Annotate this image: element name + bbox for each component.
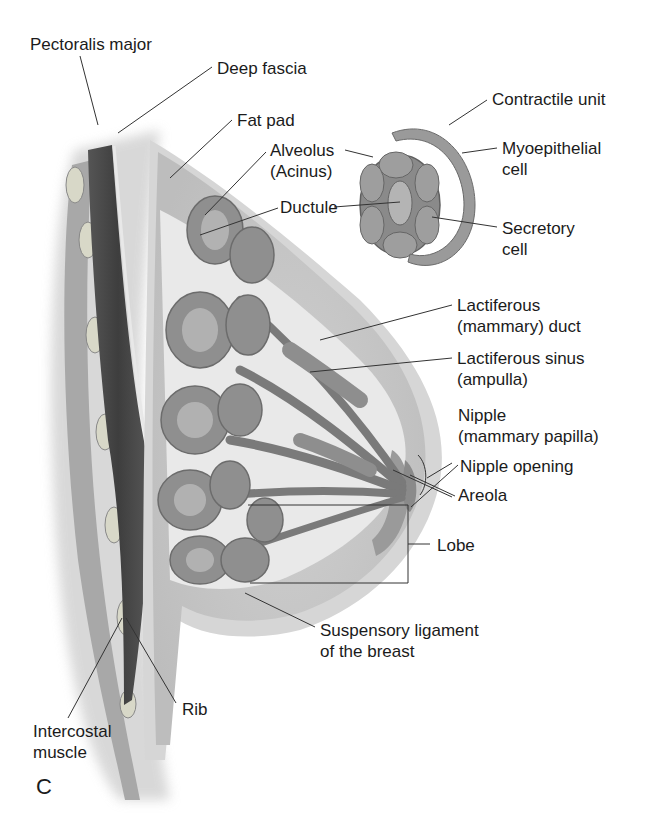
label-myoepithelial-line1: Myoepithelial	[502, 138, 601, 159]
label-lactiferous-sinus-line1: Lactiferous sinus	[457, 348, 585, 369]
label-suspensory-ligament: Suspensory ligament of the breast	[320, 620, 479, 662]
label-intercostal-line2: muscle	[33, 742, 111, 763]
label-secretory-cell: Secretory cell	[502, 218, 575, 260]
label-myoepithelial-line2: cell	[502, 159, 601, 180]
label-lactiferous-duct-line1: Lactiferous	[457, 295, 581, 316]
label-rib: Rib	[182, 699, 208, 720]
label-nipple: Nipple (mammary papilla)	[458, 405, 599, 447]
panel-letter: C	[36, 775, 52, 799]
label-secretory-line1: Secretory	[502, 218, 575, 239]
label-suspensory-line2: of the breast	[320, 641, 479, 662]
alveolus-detail	[360, 129, 475, 265]
label-lactiferous-duct-line2: (mammary) duct	[457, 316, 581, 337]
label-myoepithelial-cell: Myoepithelial cell	[502, 138, 601, 180]
label-nipple-opening: Nipple opening	[460, 456, 573, 477]
label-suspensory-line1: Suspensory ligament	[320, 620, 479, 641]
label-intercostal-line1: Intercostal	[33, 721, 111, 742]
label-lactiferous-duct: Lactiferous (mammary) duct	[457, 295, 581, 337]
label-deep-fascia: Deep fascia	[217, 58, 307, 79]
label-ductule: Ductule	[280, 197, 338, 218]
label-lactiferous-sinus: Lactiferous sinus (ampulla)	[457, 348, 585, 390]
label-fat-pad: Fat pad	[237, 110, 295, 131]
label-alveolus-line1: Alveolus	[270, 140, 334, 161]
label-nipple-line2: (mammary papilla)	[458, 426, 599, 447]
label-pectoralis-major: Pectoralis major	[30, 34, 152, 55]
label-lactiferous-sinus-line2: (ampulla)	[457, 369, 585, 390]
label-nipple-line1: Nipple	[458, 405, 599, 426]
label-lobe: Lobe	[437, 535, 475, 556]
label-secretory-line2: cell	[502, 239, 575, 260]
label-alveolus-line2: (Acinus)	[270, 161, 334, 182]
label-alveolus: Alveolus (Acinus)	[270, 140, 334, 182]
label-contractile-unit: Contractile unit	[492, 89, 605, 110]
label-areola: Areola	[458, 485, 507, 506]
label-intercostal-muscle: Intercostal muscle	[33, 721, 111, 763]
